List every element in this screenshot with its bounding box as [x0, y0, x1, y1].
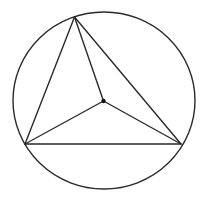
- diagram-canvas: [0, 0, 205, 197]
- interior-point: [101, 99, 105, 103]
- segment-point-to-c: [104, 101, 182, 144]
- segment-point-to-b: [25, 101, 104, 144]
- triangle-side-ca: [75, 17, 182, 144]
- triangle-side-ab: [25, 17, 75, 144]
- geometry-figure: [0, 0, 205, 197]
- segment-point-to-a: [75, 17, 104, 101]
